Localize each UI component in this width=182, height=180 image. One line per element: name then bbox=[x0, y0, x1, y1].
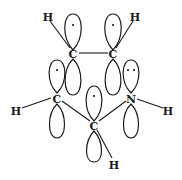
atom-c4: C bbox=[90, 120, 99, 133]
bond-h1-c1 bbox=[50, 21, 70, 48]
bond-h3-c3 bbox=[22, 98, 51, 108]
atom-h2: H bbox=[130, 11, 140, 24]
diagram-canvas: H H C C C N H H C H bbox=[0, 0, 182, 180]
c2-lower-lobe bbox=[105, 59, 121, 95]
bond-n-c4 bbox=[99, 101, 126, 121]
atom-h5: H bbox=[109, 159, 119, 172]
c2-electron bbox=[112, 24, 114, 26]
c3-electron bbox=[56, 69, 58, 71]
atom-c2: C bbox=[109, 48, 118, 61]
atom-h1: H bbox=[43, 11, 53, 24]
n-electron-2 bbox=[133, 69, 135, 71]
c4-lower-lobe bbox=[87, 131, 102, 162]
n-upper-lobe bbox=[123, 60, 139, 93]
atom-labels: H H C C C N H H C H bbox=[11, 11, 173, 172]
pyrrole-orbital-diagram: H H C C C N H H C H bbox=[0, 0, 182, 180]
c3-lower-lobe bbox=[50, 104, 65, 138]
bond-h2-c2 bbox=[116, 21, 133, 48]
n-lower-lobe bbox=[124, 104, 139, 138]
c1-lower-lobe bbox=[65, 59, 81, 95]
atom-h4: H bbox=[163, 105, 173, 118]
c1-electron bbox=[72, 24, 74, 26]
orbital-lobes bbox=[49, 14, 139, 162]
bond-c4-h5 bbox=[97, 130, 112, 158]
n-electron-1 bbox=[127, 69, 129, 71]
bonds bbox=[22, 21, 163, 158]
atom-c3: C bbox=[53, 93, 62, 106]
bond-n-h4 bbox=[137, 99, 163, 108]
c3-upper-lobe bbox=[49, 60, 65, 93]
atom-c1: C bbox=[69, 48, 78, 61]
atom-h3: H bbox=[11, 105, 21, 118]
c4-upper-lobe bbox=[86, 86, 102, 121]
c4-electron bbox=[93, 95, 95, 97]
atom-n: N bbox=[126, 93, 136, 106]
